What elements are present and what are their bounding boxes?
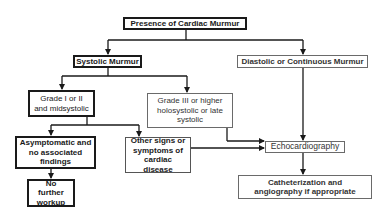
node-catheterization: Catheterization and angiography if appro…	[238, 175, 372, 199]
node-label: Grade III or higher holosystolic or late…	[156, 96, 224, 125]
node-other-signs: Other signs or symptoms of cardiac disea…	[125, 137, 191, 173]
node-presence-of-cardiac-murmur: Presence of Cardiac Murmur	[123, 17, 247, 30]
node-label: Presence of Cardiac Murmur	[131, 19, 240, 29]
node-label: Catheterization and angiography if appro…	[249, 178, 361, 197]
node-label: Grade I or II and midsystolic	[34, 94, 89, 113]
node-grade-3-or-higher: Grade III or higher holosystolic or late…	[147, 93, 233, 128]
node-no-further-workup: No further workup	[27, 179, 75, 207]
node-echocardiography: Echocardiography	[265, 141, 345, 153]
node-label: No further workup	[33, 179, 69, 208]
node-systolic-murmur: Systolic Murmur	[73, 55, 142, 68]
node-diastolic-or-continuous-murmur: Diastolic or Continuous Murmur	[237, 55, 368, 68]
node-label: Other signs or symptoms of cardiac disea…	[130, 136, 186, 174]
node-label: Asymptomatic and no associated findings	[19, 138, 92, 167]
node-label: Echocardiography	[271, 142, 340, 152]
node-grade-1-or-2: Grade I or II and midsystolic	[28, 90, 95, 117]
node-asymptomatic: Asymptomatic and no associated findings	[15, 136, 96, 169]
node-label: Systolic Murmur	[76, 57, 139, 67]
node-label: Diastolic or Continuous Murmur	[241, 57, 363, 67]
